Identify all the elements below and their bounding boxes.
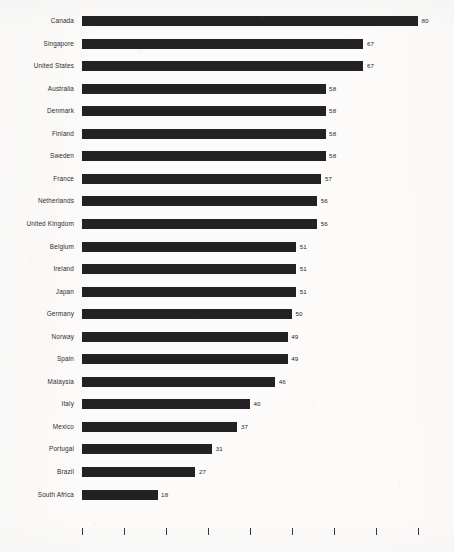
bar — [82, 467, 195, 477]
category-label: Australia — [0, 85, 74, 93]
bar — [82, 444, 212, 454]
category-label: Norway — [0, 333, 74, 341]
value-label: 40 — [254, 400, 261, 408]
bar-row: Canada80 — [0, 14, 454, 28]
category-label: Italy — [0, 400, 74, 408]
value-label: 67 — [367, 40, 374, 48]
bar-chart: Canada80Singapore67United States67Austra… — [0, 0, 454, 552]
bar — [82, 287, 296, 297]
bar — [82, 264, 296, 274]
value-label: 67 — [367, 62, 374, 70]
x-axis-tick — [334, 528, 335, 535]
category-label: Germany — [0, 310, 74, 318]
x-axis-tick — [250, 528, 251, 535]
value-label: 57 — [325, 175, 332, 183]
x-axis-tick — [82, 528, 83, 535]
x-axis-tick — [124, 528, 125, 535]
value-label: 50 — [296, 310, 303, 318]
category-label: Portugal — [0, 445, 74, 453]
bar — [82, 354, 288, 364]
x-axis-tick — [166, 528, 167, 535]
bar-row: United Kingdom56 — [0, 217, 454, 231]
bar-row: Mexico37 — [0, 420, 454, 434]
bar-row: Singapore67 — [0, 37, 454, 51]
category-label: Sweden — [0, 152, 74, 160]
bar — [82, 84, 326, 94]
value-label: 37 — [241, 423, 248, 431]
value-label: 49 — [291, 355, 298, 363]
bar-row: Australia58 — [0, 82, 454, 96]
bar-row: South Africa18 — [0, 488, 454, 502]
bar — [82, 61, 363, 71]
category-label: Denmark — [0, 107, 74, 115]
bar-row: Portugal31 — [0, 442, 454, 456]
bar-row: Finland58 — [0, 127, 454, 141]
category-label: Netherlands — [0, 197, 74, 205]
category-label: Brazil — [0, 468, 74, 476]
bar-row: Italy40 — [0, 397, 454, 411]
x-axis-tick — [376, 528, 377, 535]
category-label: Belgium — [0, 243, 74, 251]
x-axis-tick — [208, 528, 209, 535]
value-label: 51 — [300, 265, 307, 273]
bar — [82, 151, 326, 161]
category-label: Singapore — [0, 40, 74, 48]
value-label: 31 — [216, 445, 223, 453]
bar — [82, 377, 275, 387]
value-label: 49 — [291, 333, 298, 341]
value-label: 51 — [300, 288, 307, 296]
value-label: 51 — [300, 243, 307, 251]
category-label: Finland — [0, 130, 74, 138]
bar — [82, 422, 237, 432]
bar-row: Malaysia46 — [0, 375, 454, 389]
value-label: 18 — [161, 491, 168, 499]
bar-row: Brazil27 — [0, 465, 454, 479]
bar — [82, 242, 296, 252]
value-label: 27 — [199, 468, 206, 476]
bar-row: Netherlands56 — [0, 194, 454, 208]
bar-row: Germany50 — [0, 307, 454, 321]
bar — [82, 16, 418, 26]
bar — [82, 174, 321, 184]
bar — [82, 39, 363, 49]
bar — [82, 219, 317, 229]
value-label: 56 — [321, 197, 328, 205]
bar — [82, 332, 288, 342]
category-label: Spain — [0, 355, 74, 363]
value-label: 46 — [279, 378, 286, 386]
value-label: 58 — [329, 152, 336, 160]
category-label: Mexico — [0, 423, 74, 431]
bar-row: Belgium51 — [0, 240, 454, 254]
bar-row: France57 — [0, 172, 454, 186]
bar — [82, 106, 326, 116]
x-axis — [0, 528, 454, 544]
plot-area: Canada80Singapore67United States67Austra… — [0, 0, 454, 552]
category-label: France — [0, 175, 74, 183]
value-label: 58 — [329, 130, 336, 138]
bar-row: Sweden58 — [0, 149, 454, 163]
bar — [82, 196, 317, 206]
value-label: 58 — [329, 85, 336, 93]
value-label: 80 — [422, 17, 429, 25]
bar-row: United States67 — [0, 59, 454, 73]
bar-row: Ireland51 — [0, 262, 454, 276]
bar-row: Japan51 — [0, 285, 454, 299]
bar — [82, 309, 292, 319]
bar — [82, 399, 250, 409]
category-label: South Africa — [0, 491, 74, 499]
category-label: Japan — [0, 288, 74, 296]
bar-row: Norway49 — [0, 330, 454, 344]
category-label: United States — [0, 62, 74, 70]
category-label: Malaysia — [0, 378, 74, 386]
bar — [82, 490, 158, 500]
bar-row: Spain49 — [0, 352, 454, 366]
bar-row: Denmark58 — [0, 104, 454, 118]
x-axis-tick — [418, 528, 419, 535]
category-label: Ireland — [0, 265, 74, 273]
bar — [82, 129, 326, 139]
x-axis-tick — [292, 528, 293, 535]
value-label: 56 — [321, 220, 328, 228]
category-label: Canada — [0, 17, 74, 25]
value-label: 58 — [329, 107, 336, 115]
category-label: United Kingdom — [0, 220, 74, 228]
